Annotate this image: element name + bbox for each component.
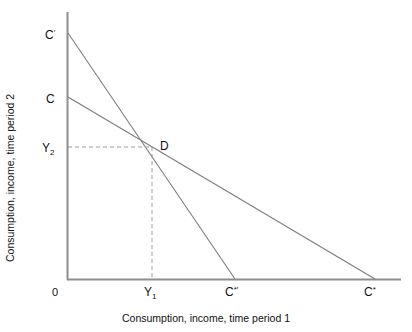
chart-background [0,0,412,332]
c-label: C [46,92,55,106]
point-d-label: D [160,139,169,153]
cstar-superscript: * [373,285,376,294]
intertemporal-budget-constraint-figure: Consumption, income, time period 2 Consu… [0,0,412,332]
y1-subscript: 1 [152,292,157,301]
cstar-prime-superscript: *′ [234,285,239,294]
c-prime-base: C [45,28,54,42]
chart-canvas: Consumption, income, time period 2 Consu… [0,0,412,332]
cstar-base: C [364,285,373,299]
origin-label: 0 [52,286,58,298]
y2-base: Y [42,141,50,155]
y2-subscript: 2 [50,148,55,157]
cstar-prime-base: C [225,285,234,299]
y1-base: Y [144,285,152,299]
y-axis-title: Consumption, income, time period 2 [4,94,16,262]
x-axis-title: Consumption, income, time period 1 [122,312,290,324]
